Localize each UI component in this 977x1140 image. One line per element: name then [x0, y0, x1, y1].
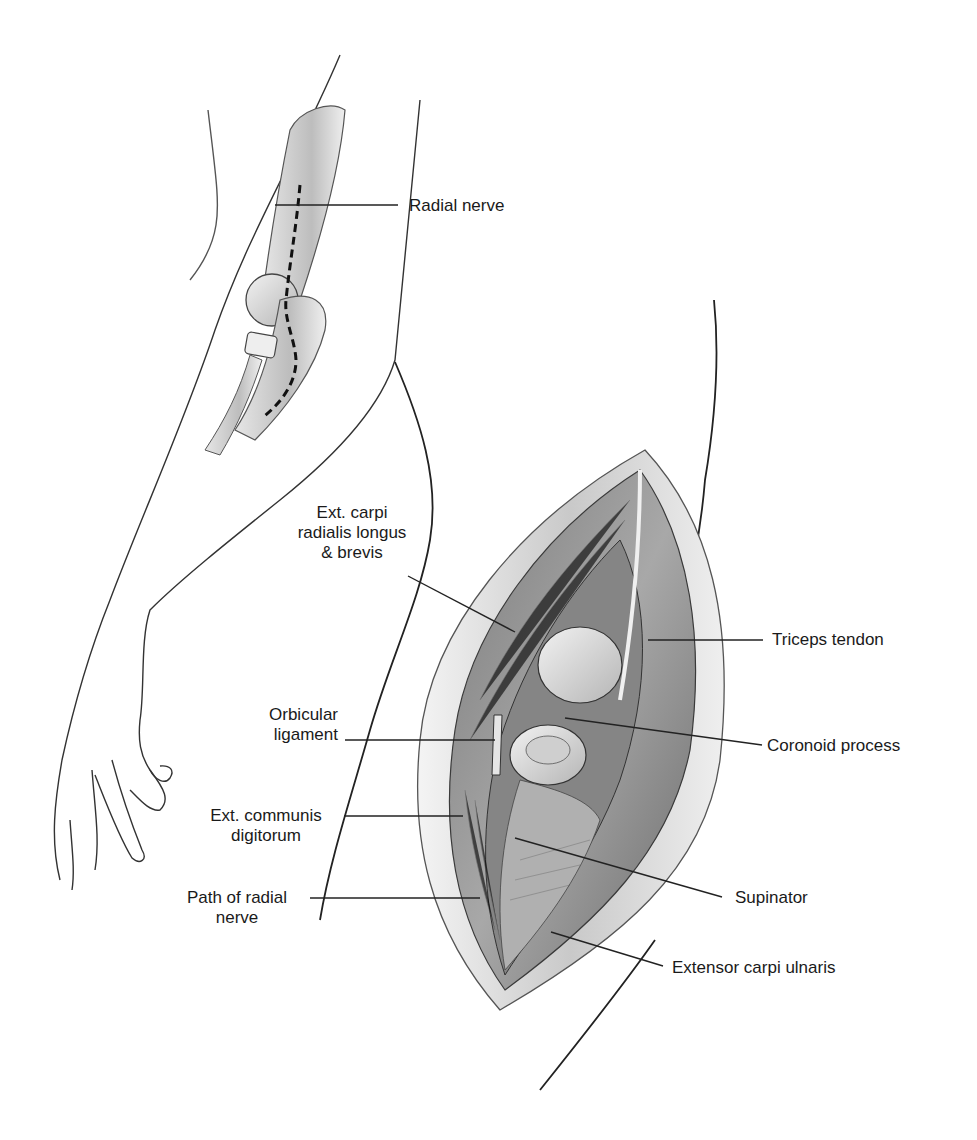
label-extensor-carpi-ulnaris: Extensor carpi ulnaris [672, 958, 835, 978]
label-radial-nerve: Radial nerve [409, 196, 504, 216]
wound-exposure [418, 450, 725, 1010]
label-triceps-tendon: Triceps tendon [772, 630, 884, 650]
label-supinator: Supinator [735, 888, 808, 908]
label-ext-carpi-radialis: Ext. carpi radialis longus & brevis [276, 503, 428, 563]
label-orbicular-ligament: Orbicular ligament [240, 705, 338, 745]
label-coronoid-process: Coronoid process [767, 736, 900, 756]
overview-bones [205, 106, 345, 455]
arm-overview [54, 55, 420, 890]
label-path-of-radial-nerve: Path of radial nerve [172, 888, 302, 928]
label-ext-communis-digitorum: Ext. communis digitorum [196, 806, 336, 846]
anatomy-figure: Radial nerve Ext. carpi radialis longus … [0, 0, 977, 1140]
